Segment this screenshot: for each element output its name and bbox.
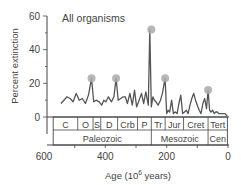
peak-marker [112,74,120,82]
x-axis-label: Age (106 years) [105,169,171,181]
y-tick-label: 60 [29,11,41,22]
period-label: Crb [120,120,135,130]
period-label: C [62,120,69,130]
peak-marker [88,74,96,82]
extinction-chart: All organisms Percent extinction 0204060… [0,0,241,185]
period-label: Cret [187,120,205,130]
period-label: D [106,120,113,130]
y-tick-label: 40 [29,44,41,55]
era-label: Cen [209,134,226,144]
extinction-line [61,30,228,116]
period-label: Tert [210,120,226,130]
y-axis-label: Percent extinction [9,28,20,104]
period-label: S [94,120,100,130]
period-label: Tr [154,120,162,130]
x-axis: 6004002000 [36,145,232,162]
period-label: O [82,120,89,130]
geologic-timescale: COSDCrbPTrJurCretTertPaleozoicMesozoicCe… [53,117,227,145]
peak-marker [204,86,212,94]
period-label: P [141,120,147,130]
x-tick-label: 600 [36,151,53,162]
era-label: Mesozoic [161,134,200,144]
y-axis: 0204060 [29,11,229,135]
y-tick-label: 20 [29,78,41,89]
y-tick-label: 0 [34,112,40,123]
chart-title: All organisms [62,12,125,24]
x-tick-label: 400 [97,151,114,162]
period-label: Jur [168,120,181,130]
x-tick-label: 200 [158,151,175,162]
peak-marker [161,74,169,82]
x-tick-label: 0 [225,151,231,162]
peak-marker [147,25,155,33]
era-label: Paleozoic [83,134,123,144]
